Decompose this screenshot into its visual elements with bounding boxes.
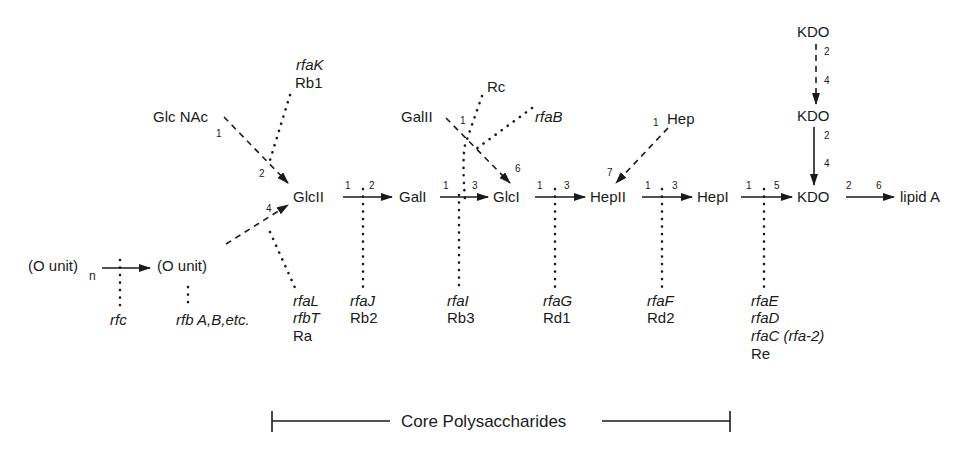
core-polysaccharides-bracket: Core Polysaccharides: [272, 411, 730, 432]
pos-hepII-3: 3: [564, 180, 570, 191]
pos-hepII-7: 7: [607, 167, 613, 178]
node-galII: GalII: [401, 108, 433, 125]
pos-galII-1: 1: [460, 115, 466, 126]
pos-glcnac-1: 1: [216, 128, 222, 139]
pos-kdo-mid-2: 2: [824, 130, 830, 141]
node-hepII: HepII: [590, 188, 626, 205]
gene-rfc: rfc: [110, 311, 127, 328]
pos-hepI-1: 1: [746, 180, 752, 191]
mutant-rb3: Rb3: [447, 309, 475, 326]
node-glcII: GlcII: [293, 188, 324, 205]
pos-lipid-a-6: 6: [876, 180, 882, 191]
pos-kdo-2: 2: [846, 180, 852, 191]
node-lipid-a: lipid A: [900, 188, 940, 205]
arrow-o-unit-to-glcII: [226, 205, 288, 244]
mutant-rb1: Rb1: [295, 74, 323, 91]
gene-rfaJ: rfaJ: [350, 292, 376, 309]
node-kdo-top: KDO: [797, 23, 830, 40]
arrow-hep-to-hepII: [616, 128, 668, 183]
pos-glcnac-2: 2: [259, 168, 265, 179]
gene-rfaB: rfaB: [535, 108, 563, 125]
pos-hepII-1: 1: [645, 180, 651, 191]
dotline-rfaL: [270, 232, 296, 290]
gene-rfaF: rfaF: [647, 292, 675, 309]
lps-biosynthesis-diagram: (O unit) n (O unit) Glc NAc GlcII GalI G…: [0, 0, 965, 455]
gene-rfaC: rfaC (rfa-2): [751, 327, 824, 344]
node-galI: GalI: [399, 188, 427, 205]
node-hepI: HepI: [697, 188, 729, 205]
gene-rfaD: rfaD: [751, 309, 780, 326]
pos-kdo-5: 5: [774, 180, 780, 191]
arrow-glcnac-to-glcII: [224, 117, 288, 183]
pos-glcI-3: 3: [472, 180, 478, 191]
mutant-rd1: Rd1: [543, 309, 571, 326]
pos-glcII-1: 1: [345, 180, 351, 191]
mutant-re: Re: [751, 345, 770, 362]
arrow-galII-to-glcI: [446, 118, 510, 183]
pos-glcI-6: 6: [515, 163, 521, 174]
pos-hep-1: 1: [653, 117, 659, 128]
pos-kdo-top-2: 2: [824, 46, 830, 57]
pos-kdo-main-4: 4: [824, 158, 830, 169]
node-o-unit: (O unit): [157, 257, 207, 274]
mutant-rb2: Rb2: [350, 309, 378, 326]
gene-rfbT: rfbT: [293, 309, 322, 326]
dotline-rfaB: [472, 108, 532, 152]
o-unit-n-label: (O unit): [28, 257, 78, 274]
node-glcI: GlcI: [493, 188, 520, 205]
gene-rfaK: rfaK: [296, 56, 325, 73]
pos-ounit-4: 4: [266, 203, 272, 214]
mutant-rd2: Rd2: [647, 309, 675, 326]
pos-galI-1: 1: [443, 180, 449, 191]
gene-rfaE: rfaE: [751, 292, 780, 309]
pos-galI-2: 2: [369, 180, 375, 191]
gene-rfb: rfb A,B,etc.: [176, 311, 250, 328]
gene-rfaI: rfaI: [447, 292, 469, 309]
mutant-rc: Rc: [487, 78, 506, 95]
gene-rfaG: rfaG: [543, 292, 573, 309]
pos-hepI-3: 3: [672, 180, 678, 191]
core-polysaccharides-label: Core Polysaccharides: [401, 412, 566, 431]
dotline-rfaK: [270, 95, 290, 160]
mutant-ra: Ra: [293, 327, 313, 344]
o-unit-n-subscript: n: [89, 269, 96, 283]
pos-glcI-1: 1: [537, 180, 543, 191]
node-o-unit-n: (O unit) n: [28, 257, 96, 283]
gene-rfaL: rfaL: [293, 292, 319, 309]
node-kdo-main: KDO: [797, 188, 830, 205]
pos-kdo-mid-4: 4: [824, 75, 830, 86]
node-glcnac: Glc NAc: [153, 108, 209, 125]
node-kdo-mid: KDO: [797, 107, 830, 124]
node-hep: Hep: [667, 110, 695, 127]
